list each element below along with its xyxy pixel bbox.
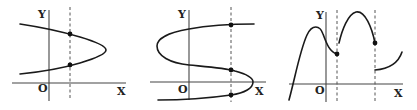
endpoint-dot xyxy=(373,41,378,46)
intersection-point xyxy=(229,93,234,98)
s-curve xyxy=(157,24,254,100)
origin-label: O xyxy=(178,83,188,96)
graph-3: Y O X xyxy=(289,9,403,102)
origin-label: O xyxy=(38,82,48,95)
endpoint-dot xyxy=(335,52,340,57)
y-axis-label: Y xyxy=(177,8,186,21)
intersection-point xyxy=(68,63,73,68)
x-axis-label: X xyxy=(394,87,403,100)
curve-segment-3 xyxy=(375,52,402,70)
graph-1: Y O X xyxy=(12,7,126,101)
y-axis-label: Y xyxy=(37,8,46,21)
curve-segment-1 xyxy=(289,27,337,100)
figure-canvas: Y O X Y O X Y O X xyxy=(0,0,417,110)
parabola-curve xyxy=(20,24,106,74)
graph-2: Y O X xyxy=(150,7,266,102)
origin-label: O xyxy=(315,84,325,97)
intersection-point xyxy=(68,32,73,37)
x-axis-label: X xyxy=(255,85,264,98)
intersection-point xyxy=(229,68,234,73)
x-axis-label: X xyxy=(117,85,126,98)
y-axis-label: Y xyxy=(315,9,324,22)
curve-segment-2 xyxy=(339,12,375,43)
intersection-point xyxy=(229,23,234,28)
